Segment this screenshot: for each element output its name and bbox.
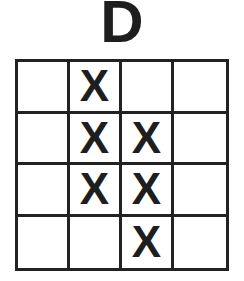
grid-cell-r3-c1 [70,217,122,269]
grid-cell-r2-c1: X [70,165,122,217]
grid-cell-r3-c2: X [122,217,174,269]
grid-cell-r0-c2 [122,62,174,114]
grid-cell-r1-c0 [18,114,70,166]
grid-cell-r3-c0 [18,217,70,269]
grid-cell-r1-c1: X [70,114,122,166]
grid-cell-r2-c2: X [122,165,174,217]
puzzle-label: D [0,0,244,52]
grid-cell-r2-c3 [174,165,226,217]
grid-cell-r3-c3 [174,217,226,269]
grid-cell-r1-c3 [174,114,226,166]
grid-cell-r2-c0 [18,165,70,217]
grid-cell-r0-c1: X [70,62,122,114]
grid: X X X X X X [15,59,229,271]
grid-cell-r1-c2: X [122,114,174,166]
grid-cell-r0-c0 [18,62,70,114]
grid-cell-r0-c3 [174,62,226,114]
